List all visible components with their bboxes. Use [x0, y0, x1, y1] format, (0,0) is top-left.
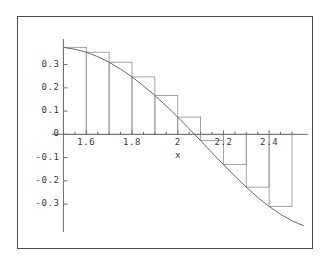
y-tick-label: -0.2 [35, 176, 59, 185]
y-tick-label: -0.3 [35, 199, 59, 208]
riemann-rectangle [178, 117, 201, 134]
figure-root: 0.30.20.10-0.1-0.2-0.31.61.822.22.4x [0, 0, 331, 265]
x-tick-label: 2 [175, 138, 181, 147]
y-tick-label: -0.1 [35, 153, 59, 162]
y-tick-label: 0.2 [41, 83, 59, 92]
riemann-rectangle [155, 96, 178, 135]
riemann-rectangle [63, 47, 86, 134]
y-tick-label: 0.1 [41, 106, 59, 115]
y-tick-label: 0.3 [41, 60, 59, 69]
x-axis-title: x [175, 151, 180, 160]
riemann-sum-plot [18, 17, 312, 248]
x-tick-label: 1.8 [123, 138, 141, 147]
riemann-rectangles [63, 47, 292, 206]
y-tick-label: 0 [53, 129, 59, 138]
x-tick-label: 2.4 [260, 138, 278, 147]
tick-marks [63, 65, 292, 205]
x-tick-label: 2.2 [214, 138, 232, 147]
riemann-rectangle [86, 52, 109, 134]
x-tick-label: 1.6 [77, 138, 95, 147]
axes-group [52, 39, 308, 232]
plot-frame: 0.30.20.10-0.1-0.2-0.31.61.822.22.4x [17, 16, 313, 249]
riemann-rectangle [109, 62, 132, 134]
